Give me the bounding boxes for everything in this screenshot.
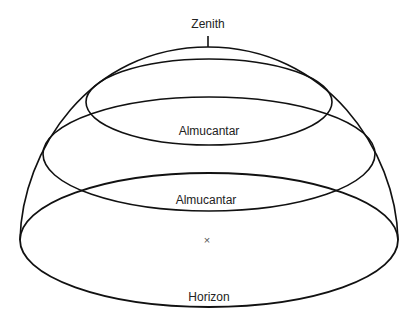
zenith-label: Zenith [191,17,224,31]
celestial-sphere-diagram: Zenith Almucantar Almucantar × Horizon [0,0,419,323]
diagram-canvas [0,0,419,323]
almucantar-lower-label: Almucantar [176,193,237,207]
horizon-label: Horizon [188,290,229,304]
almucantar-upper-label: Almucantar [179,124,240,138]
observer-mark: × [204,233,210,247]
